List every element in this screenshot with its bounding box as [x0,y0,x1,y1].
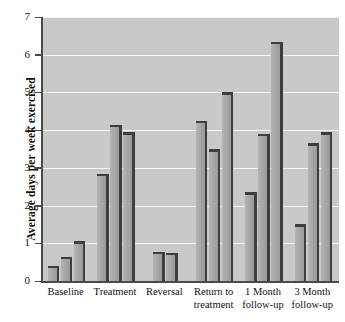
bar-side-edge [132,132,135,281]
bar-top-edge [97,174,109,177]
bar-face [308,146,317,281]
bar [308,143,320,281]
bar-top-edge [258,134,270,137]
bar-side-edge [231,92,234,281]
bar-side-edge [267,134,270,281]
bar [48,266,60,281]
y-axis-tick-label: 1 [4,236,30,248]
bar-face [258,136,267,281]
bar [123,132,135,281]
bar-face [153,254,162,281]
bar-top-edge [123,132,135,135]
y-axis-tick-label: 2 [4,199,30,211]
bar-top-edge [321,132,333,135]
bar-face [74,244,83,281]
bar-side-edge [162,252,165,281]
bar-face [48,268,57,281]
bar [222,92,234,281]
y-axis-tick-label: 4 [4,123,30,135]
bar-top-edge [245,192,257,195]
bar-side-edge [280,42,283,281]
bar-face [209,152,218,282]
x-axis-line [41,281,339,283]
bar [321,132,333,281]
bar-side-edge [254,192,257,281]
bar-face [321,135,330,281]
bar-face [196,123,205,281]
bar [110,125,122,282]
bar [97,174,109,281]
bar-side-edge [175,253,178,281]
bar-side-edge [205,121,208,281]
bar [166,253,178,281]
bar-face [245,195,254,281]
bar-top-edge [308,143,320,146]
bar-face [166,255,175,281]
gridline [43,206,339,207]
bar-top-edge [61,257,73,260]
bar-side-edge [218,149,221,281]
bar [61,257,73,282]
bar [258,134,270,281]
bar-face [295,227,304,281]
x-axis-category-label: 3 Monthfollow-up [282,286,343,311]
bar-top-edge [222,92,234,95]
plot-area [41,17,339,281]
bar-top-edge [209,149,221,152]
bar-side-edge [106,174,109,281]
bar-chart: Average days per week exercised 01234567… [0,0,345,322]
y-axis-tick-label: 5 [4,85,30,97]
bar-top-edge [295,224,307,227]
gridline [43,92,339,93]
bar-side-edge [317,143,320,281]
bar-side-edge [330,132,333,281]
bar [209,149,221,281]
bar-side-edge [304,224,307,281]
bar-top-edge [153,252,165,255]
bar-top-edge [196,121,208,124]
bar [196,121,208,281]
bar-top-edge [166,253,178,256]
bar-side-edge [119,125,122,282]
bar-side-edge [83,241,86,281]
y-axis-tick-label: 0 [4,274,30,286]
bar-face [222,95,231,281]
bar-face [61,259,70,281]
bar [74,241,86,281]
gridline [43,168,339,169]
bar [295,224,307,281]
bar-top-edge [271,42,283,45]
bar-top-edge [74,241,86,244]
bar-face [123,135,132,281]
x-axis-category-label-line: 3 Month [282,286,343,299]
gridline [43,55,339,56]
y-axis-tick-label: 3 [4,161,30,173]
x-axis-category-label-line: follow-up [282,299,343,312]
y-axis-tick-label: 7 [4,10,30,22]
bar [271,42,283,281]
bar-face [110,127,119,281]
bar-face [271,44,280,281]
bar [153,252,165,281]
bar-top-edge [110,125,122,128]
y-axis-tick-label: 6 [4,48,30,60]
gridline [43,130,339,131]
bar-top-edge [48,266,60,269]
gridline [43,17,339,18]
bar-face [97,176,106,281]
bar-side-edge [70,257,73,282]
bar [245,192,257,281]
